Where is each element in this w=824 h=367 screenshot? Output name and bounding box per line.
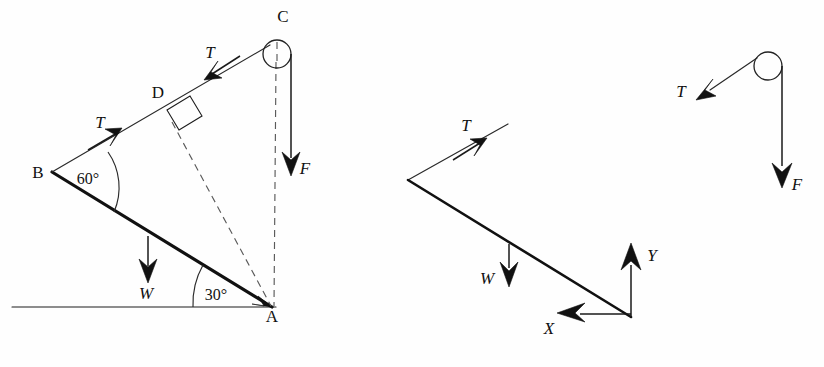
force-label-W: W (139, 284, 155, 303)
axis-label-X: X (543, 319, 555, 338)
force-label-T-lower: T (95, 113, 106, 132)
fbd-force-label-T: T (461, 116, 472, 135)
point-label-D: D (152, 83, 164, 102)
fbd-force-label-W: W (480, 269, 496, 288)
force-label-F: F (299, 159, 311, 178)
axis-label-Y: Y (647, 246, 658, 265)
physics-figure-canvas: A B C D 60° 30° T T W F T W X Y (0, 0, 824, 367)
angle-label-30: 30° (205, 286, 227, 303)
angle-label-60: 60° (77, 170, 99, 187)
point-label-B: B (32, 163, 43, 182)
point-label-A: A (266, 307, 279, 326)
pulley-detail-force-label-F: F (791, 175, 803, 194)
pulley-detail-force-label-T: T (676, 82, 687, 101)
force-label-T-upper: T (205, 43, 216, 62)
point-label-C: C (277, 7, 288, 26)
figure-root: A B C D 60° 30° T T W F T W X Y (0, 0, 824, 367)
